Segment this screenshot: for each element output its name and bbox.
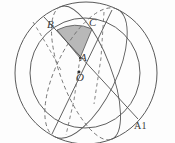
geometry-figure: B C A O A1 (0, 0, 175, 143)
point-label-c: C (89, 17, 96, 28)
point-label-a: A (80, 52, 87, 63)
dashed-radius-a-down (66, 58, 80, 135)
point-label-b: B (47, 19, 54, 30)
point-label-o: O (76, 72, 84, 83)
figure-caption-label: A1 (134, 121, 147, 131)
great-circle-1-front (61, 0, 135, 139)
geometry-canvas (0, 0, 175, 143)
